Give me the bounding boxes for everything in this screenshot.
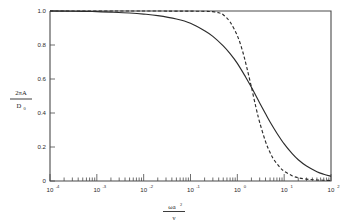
y-tick-label: 0.2 [38, 143, 47, 150]
svg-text:10: 10 [281, 186, 288, 193]
svg-text:10: 10 [328, 186, 335, 193]
y-axis-title-numerator: 2πA [15, 89, 27, 96]
chart-svg: 1.0 0.8 0.6 0.4 0.2 0 10 -4 10 [0, 0, 348, 223]
x-axis-title-numerator: ωa [168, 203, 175, 210]
svg-text:-4: -4 [56, 184, 60, 189]
y-axis-title-denominator: D [17, 102, 22, 109]
y-tick-label: 0.4 [38, 109, 47, 116]
svg-text:-2: -2 [149, 184, 153, 189]
y-tick-label: 1.0 [38, 7, 47, 14]
svg-text:10: 10 [47, 186, 54, 193]
figure-container: 1.0 0.8 0.6 0.4 0.2 0 10 -4 10 [0, 0, 348, 223]
y-tick-label: 0.6 [38, 75, 47, 82]
svg-text:10: 10 [187, 186, 194, 193]
x-axis-title-numerator-exponent: 2 [180, 202, 182, 207]
svg-text:-1: -1 [196, 184, 200, 189]
svg-text:10: 10 [140, 186, 147, 193]
x-axis-title-denominator: ν [173, 214, 176, 221]
svg-text:10: 10 [234, 186, 241, 193]
y-tick-label: 0.8 [38, 41, 47, 48]
svg-text:10: 10 [93, 186, 100, 193]
svg-text:-3: -3 [102, 184, 106, 189]
